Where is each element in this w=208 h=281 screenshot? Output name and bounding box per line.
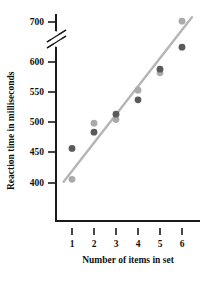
y-tick-label: 700 [30, 17, 45, 27]
x-tick-label: 2 [92, 239, 97, 249]
data-point [69, 145, 76, 152]
data-point [135, 87, 142, 94]
x-tick-label: 3 [114, 239, 119, 249]
y-tick-label: 600 [30, 57, 45, 67]
data-point [69, 176, 76, 183]
y-axis-title: Reaction time in milliseconds [6, 71, 16, 190]
x-tick-label: 6 [180, 239, 185, 249]
chart-background [0, 0, 208, 281]
reaction-time-scatter-chart: 400450500550600700 123456 Reaction time … [0, 0, 208, 281]
y-tick-label: 550 [30, 87, 45, 97]
x-tick-label: 5 [158, 239, 163, 249]
y-tick-label: 500 [30, 117, 45, 127]
data-point [179, 44, 186, 51]
y-tick-label: 450 [30, 147, 45, 157]
x-tick-label: 1 [70, 239, 75, 249]
data-point [179, 18, 186, 25]
x-axis-title: Number of items in set [82, 255, 174, 265]
x-tick-label: 4 [136, 239, 141, 249]
y-tick-label: 400 [30, 178, 45, 188]
data-point [157, 66, 164, 73]
data-point [91, 129, 98, 136]
data-point [135, 96, 142, 103]
data-point [91, 120, 98, 127]
data-point [113, 111, 120, 118]
chart-canvas: 400450500550600700 123456 Reaction time … [0, 0, 208, 281]
